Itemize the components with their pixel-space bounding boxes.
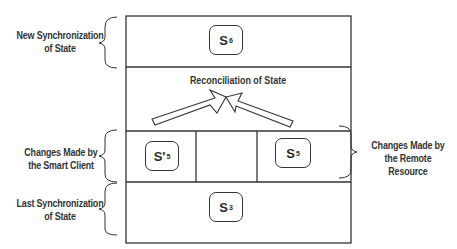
reconciliation-label: Reconciliation of State [185,74,290,86]
label-line: of State [11,42,110,55]
state-base: S [219,33,228,48]
state-base: S [286,146,295,161]
state-base: S' [154,149,166,164]
label-line: New Synchronization [11,29,110,42]
arrow-right [226,93,293,127]
label-line: Last Synchronization [11,197,110,210]
label-line: of State [11,210,110,223]
state-sub: 5 [296,150,300,157]
state-sub: 6 [229,37,233,44]
label-line: Changes Made by [366,139,451,152]
state-new: S6 [209,25,243,55]
label-new-sync: New Synchronization of State [11,29,110,55]
label-line: the Smart Client [14,159,108,172]
state-client: S'5 [145,141,179,171]
state-remote: S5 [275,138,311,168]
state-sub: 5 [166,153,170,160]
label-smart-client: Changes Made by the Smart Client [14,146,108,172]
label-remote-resource: Changes Made by the Remote Resource [366,139,451,178]
state-base: S [219,200,228,215]
arrow-left [152,90,226,125]
brace-remote [339,126,357,178]
label-line: Changes Made by [14,146,108,159]
label-line: the Remote Resource [366,152,451,178]
state-last: S3 [209,192,243,222]
label-last-sync: Last Synchronization of State [11,197,110,223]
state-sub: 3 [229,204,233,211]
